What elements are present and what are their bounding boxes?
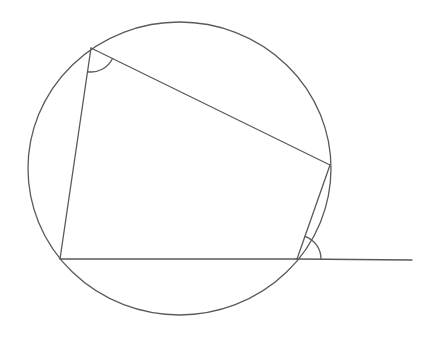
side-right xyxy=(297,165,330,259)
cyclic-quadrilateral-figure xyxy=(0,0,443,343)
side-top xyxy=(91,48,330,165)
side-left xyxy=(60,48,91,259)
extended-side-line xyxy=(297,259,412,260)
diagram-canvas xyxy=(0,0,443,343)
interior-angle-arc xyxy=(88,59,113,72)
